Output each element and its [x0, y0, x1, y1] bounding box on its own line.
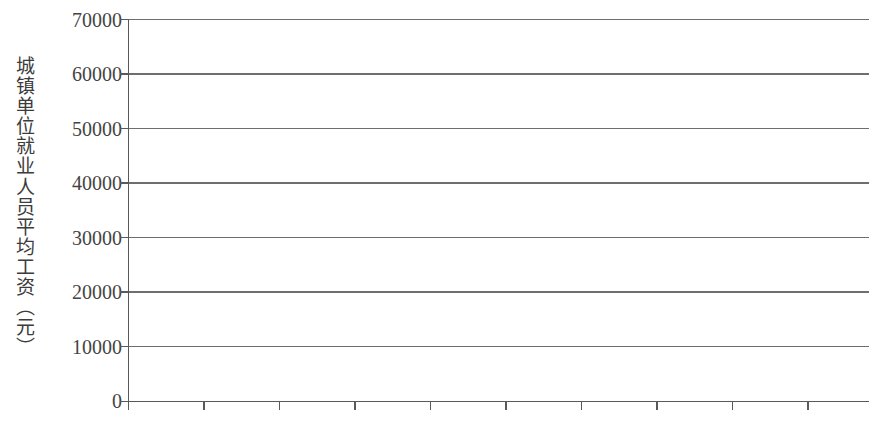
y-axis-ticks — [120, 20, 129, 402]
line-chart: 城镇单位就业人员平均工资（元） 70000 60000 50000 40000 … — [0, 0, 879, 443]
y-gridlines — [129, 20, 869, 347]
plot-area — [0, 0, 879, 443]
x-axis-ticks — [129, 402, 809, 410]
